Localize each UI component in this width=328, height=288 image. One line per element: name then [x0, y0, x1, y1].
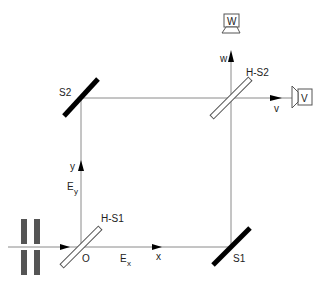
label-field-ey: E	[67, 181, 74, 192]
label-field-ex-subscript: x	[127, 259, 131, 268]
label-h-s1: H-S1	[101, 213, 124, 224]
label-s2: S2	[59, 87, 72, 98]
label-s1: S1	[233, 253, 246, 264]
label-detector-w: W	[227, 16, 237, 27]
incoming-beam-arrow-icon	[60, 244, 70, 250]
x-axis-arrow-icon	[152, 244, 162, 250]
interferometer-diagram: S2 S1 H-S1 H-S2 O W V y x w v E y E x	[0, 0, 328, 288]
w-axis-arrow-icon	[228, 50, 234, 62]
v-axis-arrow-icon	[270, 95, 282, 101]
label-field-ex: E	[120, 253, 127, 264]
label-h-s2: H-S2	[246, 67, 269, 78]
label-axis-v: v	[274, 103, 279, 114]
label-axis-x: x	[156, 251, 161, 262]
label-axis-y: y	[70, 161, 75, 172]
label-detector-v: V	[301, 93, 308, 104]
label-axis-w: w	[219, 53, 228, 64]
label-origin: O	[82, 253, 90, 264]
label-field-ey-subscript: y	[74, 187, 78, 196]
y-axis-arrow-icon	[78, 160, 84, 171]
